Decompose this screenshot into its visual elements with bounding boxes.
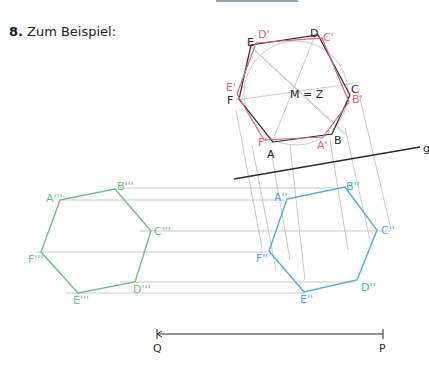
svg-text:F'': F'' (256, 252, 268, 265)
svg-text:A'': A'' (274, 191, 288, 204)
center-label: M = Z (290, 88, 324, 101)
svg-text:E': E' (226, 81, 236, 94)
svg-text:D': D' (258, 28, 270, 41)
svg-text:A': A' (317, 139, 328, 152)
svg-text:E: E (247, 36, 254, 49)
labels-side-view: A''' B''' C''' D''' E''' F''' (28, 180, 171, 307)
svg-text:D'': D'' (361, 281, 376, 294)
svg-text:E''': E''' (73, 294, 89, 307)
svg-text:C'': C'' (381, 224, 395, 237)
svg-text:A''': A''' (46, 192, 63, 205)
labels-original: A B C D E F M = Z (227, 27, 359, 161)
svg-text:B': B' (352, 93, 363, 106)
svg-text:F: F (227, 94, 233, 107)
svg-text:E'': E'' (300, 293, 313, 306)
geometry-diagram: g A B C D E F M = Z F' A' B' C' D' E' A'… (0, 0, 429, 367)
svg-text:F': F' (258, 136, 267, 149)
point-label-q: Q (153, 342, 162, 355)
svg-text:D''': D''' (133, 283, 151, 296)
svg-text:D: D (310, 27, 318, 40)
svg-text:B: B (334, 134, 342, 147)
point-label-p: P (379, 342, 386, 355)
svg-text:C''': C''' (154, 225, 171, 238)
svg-text:A: A (267, 148, 275, 161)
svg-text:C': C' (323, 31, 334, 44)
svg-text:F''': F''' (28, 253, 43, 266)
axis-label-g: g (423, 142, 429, 155)
svg-text:B''': B''' (117, 180, 134, 193)
svg-text:B'': B'' (346, 180, 360, 193)
